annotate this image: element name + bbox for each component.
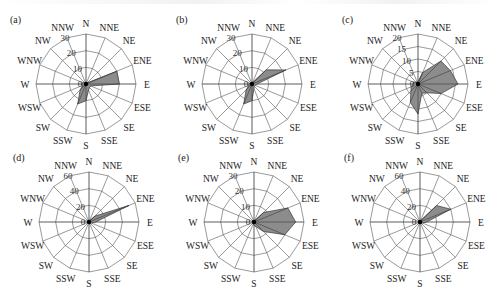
direction-label-w: W (21, 80, 30, 90)
direction-label-wsw: WSW (21, 241, 44, 251)
direction-label-ene: ENE (136, 194, 155, 204)
direction-label-w: W (187, 80, 196, 90)
direction-label-nnw: NNW (51, 23, 74, 33)
center-dot (252, 220, 256, 224)
direction-label-sse: SSE (433, 136, 450, 146)
direction-label-nne: NNE (103, 161, 123, 171)
direction-label-e: E (312, 218, 318, 228)
direction-label-se: SE (127, 261, 138, 271)
direction-label-ese: ESE (468, 241, 485, 251)
direction-label-nw: NW (201, 36, 217, 46)
direction-label-wnw: WNW (183, 56, 208, 66)
direction-label-nne: NNE (268, 161, 288, 171)
direction-label-s: S (249, 141, 254, 151)
direction-label-nnw: NNW (383, 23, 406, 33)
direction-label-e: E (478, 218, 484, 228)
direction-label-nnw: NNW (219, 161, 242, 171)
radial-tick-label: 60 (394, 171, 404, 181)
direction-label-wsw: WSW (352, 241, 375, 251)
rose-panel-f: 0204060NNNENEENEEESESESSESSSWSWWSWWWNWNW… (344, 152, 486, 289)
direction-label-ene: ENE (465, 56, 484, 66)
direction-label-se: SE (458, 261, 469, 271)
spoke-line (86, 84, 121, 119)
direction-label-wnw: WNW (17, 56, 42, 66)
rose-panel-e: 0102030NNNENEENEEESESESSESSSWSWWSWWWNWNW… (178, 152, 320, 289)
rose-panel-b: 0102030NNNENEENEEESESESSESSSWSWWSWWWNWNW… (176, 14, 318, 151)
direction-label-w: W (355, 218, 364, 228)
direction-label-nnw: NNW (385, 161, 408, 171)
direction-label-sw: SW (370, 261, 384, 271)
direction-label-s: S (415, 141, 420, 151)
spoke-line (89, 222, 124, 257)
direction-label-ese: ESE (302, 241, 319, 251)
panel-label: (e) (178, 152, 189, 164)
direction-label-nw: NW (203, 174, 219, 184)
rose-panel-a: 0102030NNNENEENEEESESESSESSSWSWWSWWWNWNW… (10, 14, 152, 151)
direction-label-w: W (353, 80, 362, 90)
rose-panel-c: 05101520NNNENEENEEESESESSESSSWSWWSWWWNWN… (342, 14, 484, 151)
direction-label-sse: SSE (267, 136, 284, 146)
direction-label-ne: NE (123, 36, 136, 46)
radial-tick-label: 0 (246, 217, 251, 227)
direction-label-sw: SW (368, 123, 382, 133)
wind-rose-figure: 0102030NNNENEENEEESESESSESSSWSWWSWWWNWNW… (0, 0, 497, 300)
direction-label-n: N (86, 157, 93, 167)
panel-label: (f) (344, 152, 354, 164)
direction-label-w: W (189, 218, 198, 228)
direction-label-sw: SW (202, 123, 216, 133)
center-dot (418, 220, 422, 224)
radial-tick-label: 20 (407, 202, 417, 212)
center-dot (250, 82, 254, 86)
radial-tick-label: 20 (392, 33, 402, 43)
spoke-line (219, 222, 254, 257)
direction-label-ssw: SSW (221, 274, 241, 284)
radial-tick-label: 20 (233, 48, 243, 58)
direction-label-ssw: SSW (385, 136, 405, 146)
radial-tick-label: 0 (410, 79, 415, 89)
direction-label-sse: SSE (101, 136, 118, 146)
direction-label-e: E (310, 80, 316, 90)
frequency-polygon (78, 71, 120, 104)
direction-label-nne: NNE (432, 23, 452, 33)
direction-label-se: SE (456, 123, 467, 133)
direction-label-ene: ENE (467, 194, 486, 204)
direction-label-ne: NE (291, 174, 304, 184)
radial-tick-label: 15 (397, 44, 407, 54)
direction-label-ssw: SSW (219, 136, 239, 146)
direction-label-ene: ENE (133, 56, 152, 66)
direction-label-s: S (251, 279, 256, 289)
center-dot (84, 82, 88, 86)
direction-label-nne: NNE (100, 23, 120, 33)
radial-tick-label: 0 (78, 79, 83, 89)
radial-tick-label: 20 (235, 186, 245, 196)
direction-label-ese: ESE (466, 103, 483, 113)
frequency-polygon (244, 70, 286, 104)
direction-label-sse: SSE (104, 274, 121, 284)
direction-label-wnw: WNW (349, 56, 374, 66)
direction-label-s: S (83, 141, 88, 151)
direction-label-e: E (147, 218, 153, 228)
center-dot (416, 82, 420, 86)
radial-tick-label: 40 (401, 186, 411, 196)
spoke-line (54, 222, 89, 257)
radial-tick-label: 10 (241, 202, 251, 212)
direction-label-sw: SW (39, 261, 53, 271)
direction-label-nw: NW (35, 36, 51, 46)
direction-label-nw: NW (369, 174, 385, 184)
direction-label-nne: NNE (434, 161, 454, 171)
direction-label-ese: ESE (300, 103, 317, 113)
direction-label-ese: ESE (134, 103, 151, 113)
direction-label-wnw: WNW (351, 194, 376, 204)
radial-tick-label: 10 (239, 64, 249, 74)
radial-tick-label: 40 (70, 186, 80, 196)
radial-tick-label: 0 (412, 217, 417, 227)
direction-label-nne: NNE (266, 23, 286, 33)
spoke-line (385, 222, 420, 257)
direction-label-wsw: WSW (184, 103, 207, 113)
center-dot (87, 220, 91, 224)
direction-label-ne: NE (457, 174, 470, 184)
radial-tick-label: 30 (226, 33, 236, 43)
direction-label-ssw: SSW (56, 274, 76, 284)
spoke-line (252, 84, 287, 119)
direction-label-ese: ESE (137, 241, 154, 251)
